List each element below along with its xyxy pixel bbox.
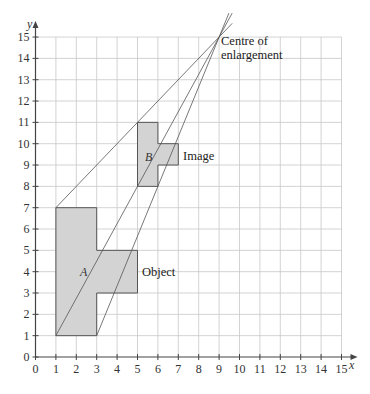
x-tick-label: 3 [94,362,100,376]
y-axis-label: y [26,17,33,31]
y-tick-label: 13 [18,73,30,87]
enlargement-rays [56,13,232,336]
y-tick-label: 7 [24,201,30,215]
x-tick-label: 1 [53,362,59,376]
image-shape-b [138,122,179,186]
y-tick-label: 11 [18,115,30,129]
y-tick-label: 1 [24,329,30,343]
y-tick-label: 14 [18,51,30,65]
object-label: Object [142,265,176,279]
x-tick-label: 12 [274,362,286,376]
x-tick-label: 11 [254,362,266,376]
x-tick-label: 6 [155,362,161,376]
y-axis-arrow-icon [33,21,39,28]
x-tick-label: 5 [135,362,141,376]
y-tick-label: 0 [24,350,30,364]
enlargement-ray [97,13,229,336]
x-tick-label: 9 [216,362,222,376]
y-tick-label: 10 [18,137,30,151]
object-shape-a [56,208,138,336]
x-tick-label: 8 [196,362,202,376]
image-label: Image [183,149,215,163]
y-tick-label: 5 [24,243,30,257]
x-axis-label: x [348,358,355,372]
y-tick-label: 15 [18,30,30,44]
y-tick-label: 4 [24,265,30,279]
image-letter-b: B [145,150,153,164]
enlargement-ray [56,13,232,336]
y-tick-label: 3 [24,286,30,300]
x-tick-label: 15 [336,362,348,376]
object-letter-a: A [79,265,88,279]
centre-label-line1: Centre of [221,34,269,48]
x-tick-label: 13 [295,362,307,376]
y-tick-label: 12 [18,94,30,108]
centre-label-line2: enlargement [221,48,283,62]
y-tick-label: 6 [24,222,30,236]
x-tick-label: 0 [33,362,39,376]
x-tick-label: 10 [234,362,246,376]
y-tick-label: 2 [24,307,30,321]
x-tick-label: 14 [315,362,327,376]
enlargement-diagram: 0123456789101112131415012345678910111213… [0,0,370,394]
y-tick-label: 9 [24,158,30,172]
coordinate-grid: 0123456789101112131415012345678910111213… [0,0,370,394]
y-tick-label: 8 [24,179,30,193]
x-tick-label: 7 [175,362,181,376]
x-tick-label: 4 [114,362,120,376]
x-tick-label: 2 [73,362,79,376]
